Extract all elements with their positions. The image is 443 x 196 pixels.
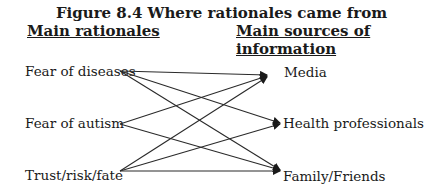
- link-arrows: [0, 0, 443, 196]
